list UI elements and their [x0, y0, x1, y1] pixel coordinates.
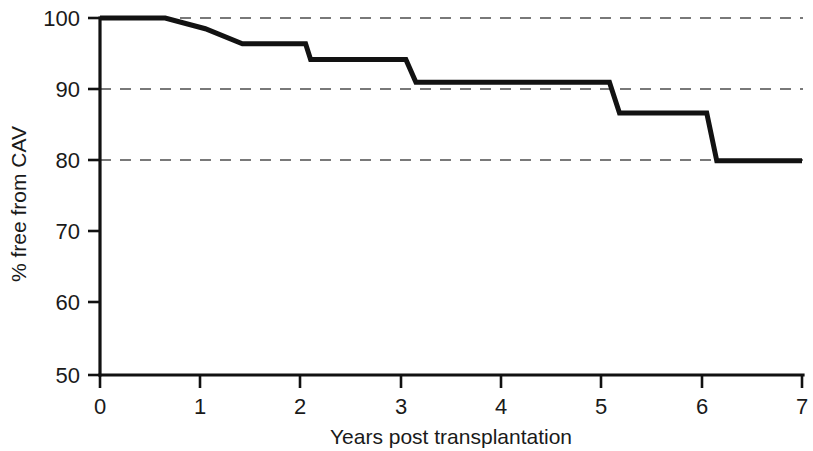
- y-tick-label-50: 50: [56, 363, 80, 388]
- x-tick-label-6: 6: [696, 394, 708, 419]
- y-tick-label-100: 100: [43, 6, 80, 31]
- y-tick-label-80: 80: [56, 148, 80, 173]
- x-tick-label-5: 5: [595, 394, 607, 419]
- cav-freedom-chart: 100 90 80 70 60 50 0 1 2 3 4 5 6 7 % fre…: [0, 0, 813, 451]
- x-tick-label-7: 7: [796, 394, 808, 419]
- x-tick-label-4: 4: [495, 394, 507, 419]
- y-axis-title: % free from CAV: [7, 126, 30, 282]
- y-tick-label-60: 60: [56, 290, 80, 315]
- y-tick-label-70: 70: [56, 219, 80, 244]
- x-tick-label-3: 3: [395, 394, 407, 419]
- x-tick-label-0: 0: [94, 394, 106, 419]
- x-tick-label-1: 1: [194, 394, 206, 419]
- chart-background: [0, 0, 813, 451]
- y-tick-label-90: 90: [56, 77, 80, 102]
- x-tick-label-2: 2: [294, 394, 306, 419]
- x-axis-title: Years post transplantation: [330, 425, 572, 448]
